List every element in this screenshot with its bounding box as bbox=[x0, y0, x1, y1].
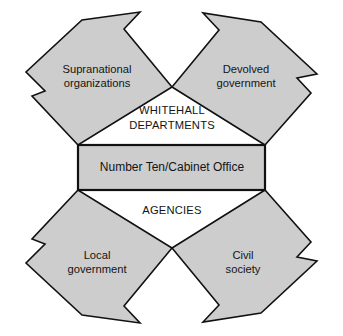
node-label-local-government-line2: government bbox=[67, 263, 127, 275]
node-label-devolved-government-line2: government bbox=[216, 77, 276, 89]
node-label-local-government-line1: Local bbox=[84, 249, 111, 261]
node-label-civil-society-line1: Civil bbox=[232, 249, 253, 261]
node-label-supranational-organizations-line1: Supranational bbox=[62, 63, 131, 75]
governance-diagram: Supranational organizations Devolved gov… bbox=[0, 0, 343, 336]
node-label-supranational-organizations-line2: organizations bbox=[64, 77, 131, 89]
inner-label-agencies: AGENCIES bbox=[142, 204, 201, 216]
diagram-root: Supranational organizations Devolved gov… bbox=[0, 0, 343, 336]
inner-label-whitehall-line2: DEPARTMENTS bbox=[129, 119, 215, 131]
node-label-civil-society-line2: society bbox=[226, 263, 261, 275]
node-label-devolved-government-line1: Devolved bbox=[223, 63, 270, 75]
inner-label-whitehall-line1: WHITEHALL bbox=[139, 104, 205, 116]
center-box-label: Number Ten/Cabinet Office bbox=[100, 160, 245, 174]
